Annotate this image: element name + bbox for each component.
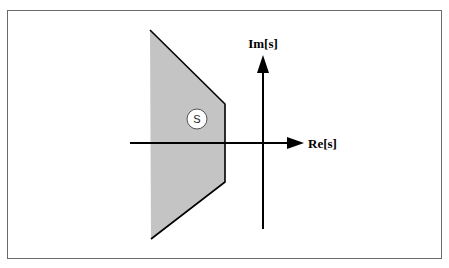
- region-s-label: S: [193, 113, 200, 125]
- imag-axis-label: Im[s]: [248, 36, 278, 51]
- imag-axis-arrow-icon: [257, 55, 269, 73]
- s-plane-diagram: S Re[s] Im[s]: [0, 0, 449, 268]
- real-axis-label: Re[s]: [308, 136, 337, 151]
- stable-region: [150, 30, 225, 239]
- real-axis-arrow-icon: [287, 137, 304, 149]
- region-s-marker: S: [187, 109, 207, 129]
